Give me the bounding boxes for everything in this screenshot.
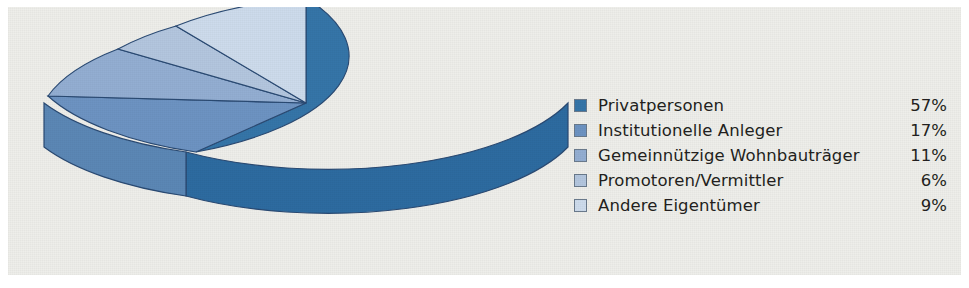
legend-percent: 57%	[901, 96, 959, 115]
legend-swatch-promotoren	[574, 174, 587, 187]
legend-percent: 9%	[901, 196, 959, 215]
legend-label: Andere Eigentümer	[598, 196, 760, 215]
chart-legend: Privatpersonen 57% Institutionelle Anleg…	[574, 93, 959, 218]
chart-canvas: Privatpersonen 57% Institutionelle Anleg…	[8, 7, 961, 275]
legend-item-institutionelle: Institutionelle Anleger 17%	[574, 118, 959, 143]
legend-item-privatpersonen: Privatpersonen 57%	[574, 93, 959, 118]
legend-percent: 17%	[901, 121, 959, 140]
legend-swatch-institutionelle	[574, 124, 587, 137]
pie-svg	[8, 7, 608, 275]
legend-item-promotoren: Promotoren/Vermittler 6%	[574, 168, 959, 193]
legend-label: Institutionelle Anleger	[598, 121, 782, 140]
legend-item-andere: Andere Eigentümer 9%	[574, 193, 959, 218]
legend-percent: 11%	[901, 146, 959, 165]
legend-swatch-andere	[574, 199, 587, 212]
legend-label: Privatpersonen	[598, 96, 724, 115]
legend-item-gemeinnuetzige: Gemeinnützige Wohnbauträger 11%	[574, 143, 959, 168]
legend-label: Promotoren/Vermittler	[598, 171, 783, 190]
legend-swatch-gemeinnuetzige	[574, 149, 587, 162]
legend-percent: 6%	[901, 171, 959, 190]
pie-chart-figure: Privatpersonen 57% Institutionelle Anleg…	[0, 0, 969, 288]
legend-label: Gemeinnützige Wohnbauträger	[598, 146, 860, 165]
pie-graphic	[8, 7, 608, 275]
legend-swatch-privatpersonen	[574, 99, 587, 112]
